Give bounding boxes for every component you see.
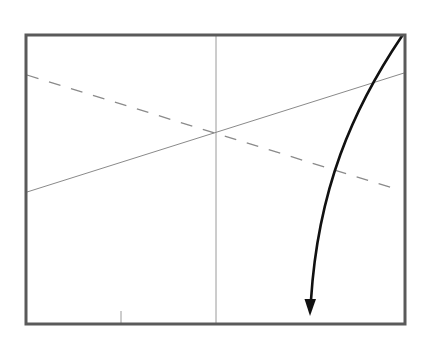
background [0,0,426,347]
geometric-diagram [0,0,426,347]
